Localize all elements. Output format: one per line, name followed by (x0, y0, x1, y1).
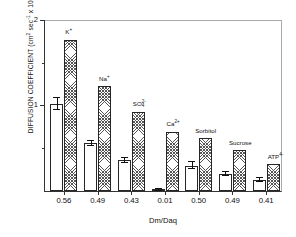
y-axis-title-tail: x 10 (27, 0, 34, 15)
error-bar-cap-upper (53, 97, 60, 98)
bar-open (185, 166, 198, 192)
x-axis-tick (131, 191, 132, 195)
plot-area: 12K+0.56Na+0.49SO2-40.43Ca2+0.01Sorbitol… (44, 20, 282, 192)
bar-hatched (64, 40, 77, 191)
bar-open (219, 174, 232, 191)
y-axis-title: DIFFUSION COEFFICIENT (cm2 sec-1 x 106) (26, 0, 34, 164)
bar-group: Sorbitol (185, 21, 212, 191)
series-label: Ca2+ (167, 120, 180, 127)
error-bar-cap-lower (53, 109, 60, 110)
series-label: K+ (65, 28, 72, 35)
bar-open (84, 143, 97, 191)
y-axis-tick-label: 2 (34, 16, 38, 24)
x-axis-tick (98, 191, 99, 195)
error-bar-cap-lower (155, 190, 162, 191)
error-bar-cap-lower (256, 181, 263, 182)
y-axis-title-sup2: -1 (26, 15, 31, 20)
series-label: Sorbitol (195, 128, 216, 134)
bar-hatched (199, 138, 212, 191)
series-label: Sucrose (229, 140, 252, 146)
x-axis-tick-label: 0.01 (158, 196, 173, 205)
bar-hatched (132, 112, 145, 191)
error-bar-cap-upper (87, 140, 94, 141)
x-axis-title: Dm/Daq (44, 216, 282, 225)
bar-hatched (98, 86, 111, 191)
series-label: Na+ (99, 75, 110, 82)
y-axis-title-sup1: 2 (26, 33, 31, 36)
y-axis-tick-major: 2 (40, 20, 45, 21)
y-axis-title-main: DIFFUSION COEFFICIENT (cm (27, 35, 34, 133)
error-bar-cap-lower (121, 162, 128, 163)
x-axis-tick (266, 191, 267, 195)
error-bar-cap-upper (256, 177, 263, 178)
y-axis-tick-minor (42, 63, 46, 64)
bar-hatched (267, 164, 280, 191)
error-bar-cap-lower (87, 145, 94, 146)
x-axis-tick (199, 191, 200, 195)
figure-container: DIFFUSION COEFFICIENT (cm2 sec-1 x 106) … (0, 0, 296, 237)
x-axis-tick (64, 191, 65, 195)
bar-open (50, 104, 63, 191)
bar-group: K+ (50, 21, 77, 191)
bar-group: Na+ (84, 21, 111, 191)
x-axis-tick-label: 0.43 (124, 196, 139, 205)
x-axis-tick (165, 191, 166, 195)
bar-group: Ca2+ (152, 21, 179, 191)
x-axis-tick-label: 0.49 (225, 196, 240, 205)
error-bar-cap-lower (222, 175, 229, 176)
error-bar-cap-lower (188, 168, 195, 169)
y-axis-tick-minor (42, 148, 46, 149)
x-axis-tick-label: 0.50 (191, 196, 206, 205)
y-axis-tick-label: 1 (34, 101, 38, 109)
series-label: ATP4- (268, 153, 284, 160)
bar-group: SO2-4 (118, 21, 145, 191)
bar-open (118, 160, 131, 191)
y-axis-tick-major: 1 (40, 105, 45, 106)
error-bar-cap-upper (121, 157, 128, 158)
x-axis-tick (232, 191, 233, 195)
x-axis-tick-label: 0.56 (56, 196, 71, 205)
error-bar-cap-upper (222, 171, 229, 172)
error-bar-cap-upper (188, 161, 195, 162)
x-axis-tick-label: 0.41 (259, 196, 274, 205)
x-axis-tick-label: 0.49 (90, 196, 105, 205)
bar-hatched (233, 150, 246, 191)
bar-group: ATP4- (253, 21, 280, 191)
series-label: SO2-4 (133, 100, 146, 108)
bar-hatched (166, 132, 179, 192)
bar-group: Sucrose (219, 21, 246, 191)
